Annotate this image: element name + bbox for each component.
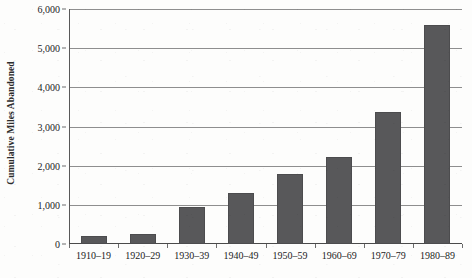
x-tick-mark-0 bbox=[69, 244, 70, 248]
bar-cell bbox=[69, 9, 118, 244]
bar-cell bbox=[167, 9, 216, 244]
bar-1980–89 bbox=[424, 25, 450, 244]
bar-cell bbox=[315, 9, 364, 244]
y-axis-title-text: Cumulative Miles Abandoned bbox=[6, 61, 16, 184]
x-tick-label-1920–29: 1920–29 bbox=[118, 250, 167, 270]
x-tick-mark-6 bbox=[364, 244, 365, 248]
bar-1940–49 bbox=[228, 193, 254, 244]
bar-cell bbox=[266, 9, 315, 244]
x-tick-label-1950–59: 1950–59 bbox=[266, 250, 315, 270]
bar-cell bbox=[216, 9, 265, 244]
y-tick-mark-3000 bbox=[62, 126, 66, 127]
bar-1920–29 bbox=[130, 234, 156, 244]
bar-1930–39 bbox=[179, 207, 205, 244]
y-tick-label-3000: 3,000 bbox=[38, 121, 61, 132]
y-tick-mark-2000 bbox=[62, 165, 66, 166]
y-tick-label-6000: 6,000 bbox=[38, 4, 61, 15]
x-tick-mark-4 bbox=[266, 244, 267, 248]
x-tick-label-1910–19: 1910–19 bbox=[69, 250, 118, 270]
y-tick-mark-4000 bbox=[62, 87, 66, 88]
y-tick-label-5000: 5,000 bbox=[38, 43, 61, 54]
y-tick-label-2000: 2,000 bbox=[38, 160, 61, 171]
y-tick-mark-1000 bbox=[62, 204, 66, 205]
x-axis-tick-labels: 1910–191920–291930–391940–491950–591960–… bbox=[69, 250, 462, 270]
y-tick-label-0: 0 bbox=[55, 239, 60, 250]
bar-1950–59 bbox=[277, 174, 303, 244]
bar-1960–69 bbox=[326, 157, 352, 244]
x-tick-mark-8 bbox=[462, 244, 463, 248]
x-tick-mark-5 bbox=[315, 244, 316, 248]
bar-series bbox=[69, 9, 462, 244]
x-tick-label-1970–79: 1970–79 bbox=[364, 250, 413, 270]
x-tick-mark-7 bbox=[413, 244, 414, 248]
bar-cell bbox=[118, 9, 167, 244]
bar-cell bbox=[413, 9, 462, 244]
x-tick-label-1980–89: 1980–89 bbox=[413, 250, 462, 270]
x-tick-label-1940–49: 1940–49 bbox=[216, 250, 265, 270]
bar-cell bbox=[364, 9, 413, 244]
x-tick-label-1930–39: 1930–39 bbox=[167, 250, 216, 270]
y-tick-label-1000: 1,000 bbox=[38, 199, 61, 210]
x-tick-mark-2 bbox=[167, 244, 168, 248]
y-axis-title: Cumulative Miles Abandoned bbox=[0, 0, 22, 246]
y-tick-mark-5000 bbox=[62, 48, 66, 49]
x-tick-mark-1 bbox=[118, 244, 119, 248]
x-tick-label-1960–69: 1960–69 bbox=[315, 250, 364, 270]
chart-figure: Cumulative Miles Abandoned 01,0002,0003,… bbox=[0, 0, 472, 278]
plot-area bbox=[69, 9, 462, 244]
y-axis-tick-labels: 01,0002,0003,0004,0005,0006,000 bbox=[20, 0, 66, 250]
bar-1910–19 bbox=[81, 236, 107, 244]
y-tick-label-4000: 4,000 bbox=[38, 82, 61, 93]
bar-1970–79 bbox=[375, 112, 401, 244]
x-tick-mark-3 bbox=[216, 244, 217, 248]
y-tick-mark-6000 bbox=[62, 9, 66, 10]
y-tick-mark-0 bbox=[62, 244, 66, 245]
